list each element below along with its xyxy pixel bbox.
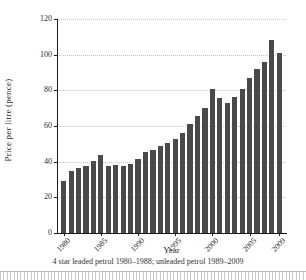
bar-1989 bbox=[128, 164, 133, 233]
bar-1984 bbox=[91, 161, 96, 233]
y-tick-mark-20 bbox=[54, 197, 57, 198]
bar-1988 bbox=[121, 166, 126, 233]
bar-1986 bbox=[106, 166, 111, 233]
bar-2000 bbox=[210, 89, 215, 233]
y-axis-line bbox=[57, 19, 58, 234]
y-tick-label-60: 60 bbox=[28, 121, 52, 131]
bar-1987 bbox=[113, 165, 118, 233]
bar-1995 bbox=[173, 139, 178, 234]
y-tick-mark-100 bbox=[54, 55, 57, 56]
bar-2003 bbox=[232, 97, 237, 233]
bar-2005 bbox=[247, 78, 252, 233]
bar-1991 bbox=[143, 152, 148, 233]
plot-area bbox=[57, 19, 286, 233]
bar-2006 bbox=[254, 69, 259, 233]
bar-1992 bbox=[150, 150, 155, 233]
y-tick-mark-60 bbox=[54, 126, 57, 127]
bar-1998 bbox=[195, 116, 200, 233]
bar-1996 bbox=[180, 133, 185, 233]
bar-2004 bbox=[240, 89, 245, 233]
y-tick-mark-0 bbox=[54, 233, 57, 234]
bar-2008 bbox=[269, 40, 274, 233]
bar-2007 bbox=[262, 62, 267, 233]
y-tick-label-100: 100 bbox=[28, 50, 52, 60]
y-tick-label-0: 0 bbox=[28, 228, 52, 238]
bar-1985 bbox=[98, 155, 103, 233]
figure-caption: 4 star leaded petrol 1980–1988; unleaded… bbox=[0, 257, 296, 266]
bar-2002 bbox=[225, 103, 230, 233]
y-tick-mark-120 bbox=[54, 19, 57, 20]
gridline-120 bbox=[57, 19, 286, 20]
bar-1997 bbox=[187, 124, 192, 233]
gridline-100 bbox=[57, 55, 286, 56]
y-tick-label-40: 40 bbox=[28, 157, 52, 167]
bar-1999 bbox=[202, 108, 207, 233]
ruler-band bbox=[0, 271, 306, 280]
y-tick-label-80: 80 bbox=[28, 85, 52, 95]
y-tick-mark-80 bbox=[54, 90, 57, 91]
y-axis-title: Price per litre (pence) bbox=[3, 65, 13, 175]
bar-1994 bbox=[165, 143, 170, 233]
bar-1993 bbox=[158, 146, 163, 233]
bar-1980 bbox=[61, 181, 66, 233]
bar-1981 bbox=[69, 171, 74, 233]
bar-2009 bbox=[277, 53, 282, 233]
y-tick-label-20: 20 bbox=[28, 192, 52, 202]
bar-1982 bbox=[76, 168, 81, 233]
petrol-price-figure: Price per litre (pence) 020406080100120 … bbox=[0, 0, 306, 280]
bar-1983 bbox=[83, 166, 88, 233]
bar-1990 bbox=[135, 159, 140, 233]
x-tick-mark-2005 bbox=[250, 233, 251, 236]
y-tick-label-120: 120 bbox=[28, 14, 52, 24]
x-axis-title: Year bbox=[57, 245, 286, 255]
x-axis-line bbox=[57, 233, 287, 234]
bar-2001 bbox=[217, 98, 222, 233]
y-tick-mark-40 bbox=[54, 162, 57, 163]
